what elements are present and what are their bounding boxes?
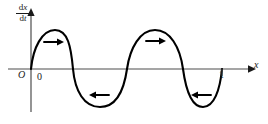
y-axis-label-numerator: dx [10,3,36,12]
origin-label: O [18,70,25,80]
y-axis-label-denominator: dt [10,14,36,23]
flow-arrow-1 [44,38,64,45]
flow-arrow-3 [146,37,166,44]
tick-label-zero: 0 [37,72,42,82]
tick-label-one: 1 [219,70,224,80]
phase-line-diagram: dx dt x O 0 1 [0,0,268,124]
plot-area [0,0,268,124]
flow-arrow-4 [191,91,211,98]
x-axis-label: x [254,60,258,70]
y-axis-label: dx dt [10,3,36,24]
flow-arrow-2 [89,91,109,98]
